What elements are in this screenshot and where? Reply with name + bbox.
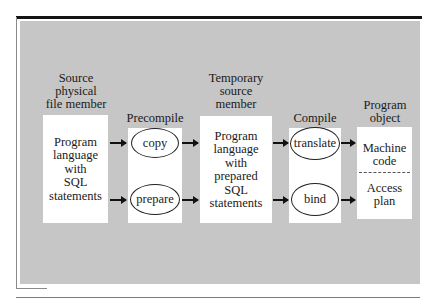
box-line: statements bbox=[43, 190, 108, 203]
box-line: Access bbox=[357, 182, 412, 195]
box-line: SQL bbox=[43, 176, 108, 189]
translate-process: translate bbox=[290, 127, 340, 160]
box-line: prepared bbox=[200, 170, 272, 183]
arrow-temporary-to-translate bbox=[273, 142, 288, 144]
page-bottom-rule bbox=[16, 297, 420, 298]
frame-bottom-rule bbox=[16, 288, 47, 289]
bind-process: bind bbox=[291, 183, 339, 216]
compile-heading: Compile bbox=[284, 112, 346, 125]
arrow-copy-to-temporary bbox=[182, 142, 198, 144]
box-line: statements bbox=[200, 197, 272, 210]
machine-code-section: Machine code bbox=[357, 142, 412, 169]
arrow-translate-to-machine-code bbox=[341, 142, 355, 144]
arrow-source-to-copy bbox=[110, 142, 126, 144]
box-line: language bbox=[43, 149, 108, 162]
box-line: language bbox=[200, 143, 272, 156]
box-line: Program bbox=[200, 130, 272, 143]
arrow-temporary-to-bind bbox=[273, 199, 288, 201]
box-line: SQL bbox=[200, 184, 272, 197]
copy-process: copy bbox=[131, 128, 179, 158]
box-line: Program bbox=[43, 136, 108, 149]
box-line: plan bbox=[357, 195, 412, 208]
frame-left-rule bbox=[16, 17, 17, 289]
program-object-box: Machine code Access plan bbox=[357, 127, 412, 219]
arrow-source-to-prepare bbox=[110, 199, 126, 201]
box-line: Machine bbox=[357, 142, 412, 155]
source-heading: Source physical file member bbox=[38, 72, 114, 111]
program-object-heading: Program object bbox=[352, 99, 418, 125]
box-line: with bbox=[200, 157, 272, 170]
heading-line: object bbox=[352, 112, 418, 125]
section-divider bbox=[359, 172, 410, 173]
access-plan-section: Access plan bbox=[357, 182, 412, 209]
temporary-member-box: Program language with prepared SQL state… bbox=[200, 116, 272, 223]
box-line: code bbox=[357, 155, 412, 168]
heading-line: member bbox=[196, 98, 276, 111]
heading-line: file member bbox=[38, 98, 114, 111]
arrow-bind-to-access-plan bbox=[341, 199, 355, 201]
prepare-process: prepare bbox=[130, 184, 180, 215]
temporary-heading: Temporary source member bbox=[196, 72, 276, 111]
source-member-box: Program language with SQL statements bbox=[43, 115, 108, 223]
frame-top-rule bbox=[16, 16, 422, 19]
precompile-heading: Precompile bbox=[118, 112, 192, 125]
arrow-prepare-to-temporary bbox=[182, 199, 198, 201]
box-line: with bbox=[43, 163, 108, 176]
